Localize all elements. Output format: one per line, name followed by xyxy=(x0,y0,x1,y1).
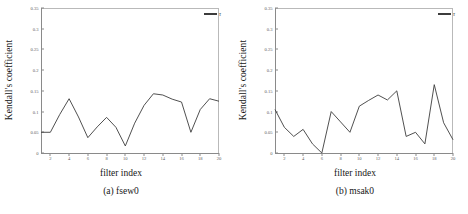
y-tick-label: 0.1 xyxy=(267,109,275,114)
x-tick-mark xyxy=(303,153,304,156)
legend-entry-tau-a: τ xyxy=(219,11,221,17)
legend-entry-tau-b: τ xyxy=(453,11,455,17)
x-axis-label-b: filter index xyxy=(252,168,458,178)
x-tick-mark xyxy=(359,153,360,156)
series-polyline-τ xyxy=(275,85,453,153)
y-tick-label: 0.2 xyxy=(33,68,41,73)
y-axis-label-b: Kendall's coefficient xyxy=(236,0,250,160)
x-tick-mark xyxy=(125,153,126,156)
x-tick-mark xyxy=(378,153,379,156)
x-tick-mark xyxy=(200,153,201,156)
y-tick-label: 0.3 xyxy=(267,26,275,31)
x-tick-mark xyxy=(69,153,70,156)
x-tick-mark xyxy=(284,153,285,156)
axis-inner-b: 00.050.10.150.20.250.30.3524681012141618… xyxy=(275,8,453,153)
y-tick-label: 0.2 xyxy=(267,68,275,73)
x-tick-mark xyxy=(453,153,454,156)
y-tick-label: 0.05 xyxy=(30,130,41,135)
x-tick-mark xyxy=(181,153,182,156)
x-tick-mark xyxy=(106,153,107,156)
y-axis-label-a: Kendall's coefficient xyxy=(2,0,16,160)
panel-b: Kendall's coefficient 00.050.10.150.20.2… xyxy=(234,0,468,214)
data-series-line xyxy=(275,8,453,153)
y-tick-label: 0.3 xyxy=(33,26,41,31)
plot-area-a: 00.050.10.150.20.250.30.3524681012141618… xyxy=(18,8,224,160)
plot-area-b: 00.050.10.150.20.250.30.3524681012141618… xyxy=(252,8,458,160)
y-tick-label: 0.15 xyxy=(264,88,275,93)
y-tick-label: 0.1 xyxy=(33,109,41,114)
y-tick-label: 0.35 xyxy=(30,6,41,11)
figure-two-panel-line-charts: Kendall's coefficient 00.050.10.150.20.2… xyxy=(0,0,468,214)
legend-line-swatch-a xyxy=(204,13,217,14)
x-tick-mark xyxy=(144,153,145,156)
x-tick-mark xyxy=(434,153,435,156)
y-tick-label: 0.35 xyxy=(264,6,275,11)
x-tick-mark xyxy=(219,153,220,156)
legend-line-swatch-b xyxy=(438,13,451,14)
data-series-line xyxy=(41,8,219,153)
series-polyline-τ xyxy=(41,94,219,146)
y-tick-label: 0.05 xyxy=(264,130,275,135)
y-tick-label: 0.25 xyxy=(264,47,275,52)
axis-inner-a: 00.050.10.150.20.250.30.3524681012141618… xyxy=(41,8,219,153)
panel-caption-b: (b) msak0 xyxy=(252,186,458,196)
x-tick-mark xyxy=(396,153,397,156)
x-tick-mark xyxy=(162,153,163,156)
x-axis-label-a: filter index xyxy=(18,168,224,178)
x-tick-mark xyxy=(50,153,51,156)
x-tick-mark xyxy=(340,153,341,156)
legend-a: τ xyxy=(204,11,221,17)
y-tick-label: 0.25 xyxy=(30,47,41,52)
y-tick-label: 0.15 xyxy=(30,88,41,93)
x-tick-mark xyxy=(415,153,416,156)
legend-b: τ xyxy=(438,11,455,17)
panel-a: Kendall's coefficient 00.050.10.150.20.2… xyxy=(0,0,234,214)
x-tick-mark xyxy=(87,153,88,156)
panel-caption-a: (a) fsew0 xyxy=(18,186,224,196)
